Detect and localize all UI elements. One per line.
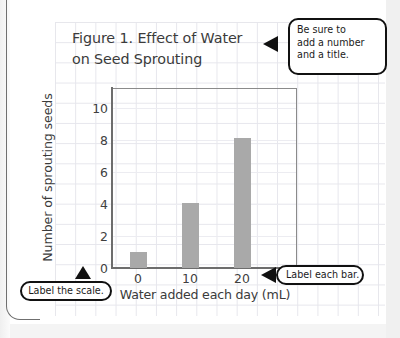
bar-10 — [182, 203, 199, 268]
plot-frame — [112, 88, 297, 268]
y-tick-2: 2 — [82, 229, 108, 244]
x-axis-label: Water added each day (mL) — [112, 287, 298, 302]
scanned-page-background: Figure 1. Effect of Water on Seed Sprout… — [0, 0, 400, 338]
arrow-left-icon-title — [263, 36, 278, 52]
chart-title: Figure 1. Effect of Water on Seed Sprout… — [72, 28, 277, 70]
y-axis-label: Number of sprouting seeds — [40, 83, 55, 273]
bar-20 — [234, 138, 251, 268]
x-tick-10: 10 — [170, 271, 210, 286]
y-tick-10: 10 — [82, 101, 108, 116]
y-tick-4: 4 — [82, 197, 108, 212]
y-tick-6: 6 — [82, 165, 108, 180]
y-axis-line — [111, 87, 113, 269]
callout-title-note: Be sure to add a number and a title. — [288, 18, 387, 75]
callout-scale-note: Label the scale. — [20, 281, 112, 301]
callout-bar-note: Label each bar. — [276, 265, 364, 285]
y-tick-8: 8 — [82, 133, 108, 148]
arrow-up-icon-scale — [75, 266, 91, 279]
x-tick-0: 0 — [118, 271, 158, 286]
x-tick-20: 20 — [222, 271, 262, 286]
arrow-left-icon-bar — [261, 267, 276, 283]
bar-0 — [130, 252, 147, 268]
